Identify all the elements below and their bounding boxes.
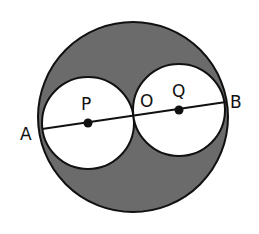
label-q: Q	[172, 81, 185, 101]
label-o: O	[140, 91, 153, 111]
point-q-dot	[175, 106, 184, 115]
label-b: B	[230, 92, 242, 112]
label-a: A	[20, 124, 32, 144]
geometry-diagram: P Q O A B	[0, 0, 259, 234]
point-p-dot	[84, 119, 93, 128]
label-p: P	[81, 94, 91, 114]
